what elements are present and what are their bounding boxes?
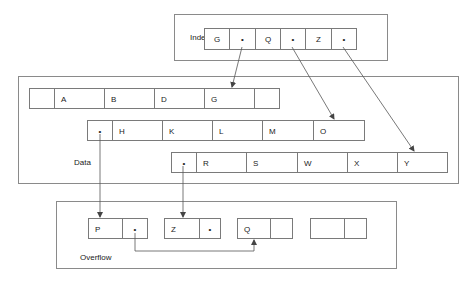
overflow-pointer-cell bbox=[270, 218, 293, 239]
data-row3-cell: Y bbox=[397, 152, 448, 173]
data-row1-cell bbox=[29, 88, 55, 109]
overflow-key-cell: P bbox=[88, 218, 123, 239]
overflow-label: Overflow bbox=[80, 253, 112, 262]
data-row3-cell: W bbox=[297, 152, 348, 173]
data-row2-pointer-cell: • bbox=[87, 120, 113, 141]
overflow-pointer-cell: • bbox=[199, 218, 221, 239]
overflow-key-cell: Z bbox=[164, 218, 200, 239]
index-cell-key: Q bbox=[255, 28, 281, 50]
data-label: Data bbox=[74, 158, 91, 167]
index-cell-pointer: • bbox=[331, 28, 357, 50]
index-cell-key: G bbox=[204, 28, 230, 50]
data-row3-cell: S bbox=[246, 152, 298, 173]
data-row2-cell: K bbox=[162, 120, 213, 141]
data-row3-cell: X bbox=[347, 152, 398, 173]
index-cell-key: Z bbox=[305, 28, 332, 50]
index-cell-pointer: • bbox=[280, 28, 306, 50]
data-row2-cell: M bbox=[262, 120, 314, 141]
data-row3-pointer-cell: • bbox=[171, 152, 197, 173]
data-row1-cell: D bbox=[154, 88, 205, 109]
data-row2-cell: H bbox=[112, 120, 163, 141]
data-row1-cell: A bbox=[54, 88, 105, 109]
index-cell-pointer: • bbox=[229, 28, 256, 50]
overflow-pointer-cell: • bbox=[122, 218, 148, 239]
data-row2-cell: L bbox=[212, 120, 263, 141]
overflow-key-cell: Q bbox=[237, 218, 271, 239]
data-row3-cell: R bbox=[196, 152, 247, 173]
overflow-key-cell bbox=[310, 218, 345, 239]
overflow-pointer-cell bbox=[344, 218, 367, 239]
data-row1-cell: G bbox=[204, 88, 255, 109]
data-row2-cell: O bbox=[313, 120, 365, 141]
data-row1-cell bbox=[254, 88, 280, 109]
data-row1-cell: B bbox=[104, 88, 155, 109]
